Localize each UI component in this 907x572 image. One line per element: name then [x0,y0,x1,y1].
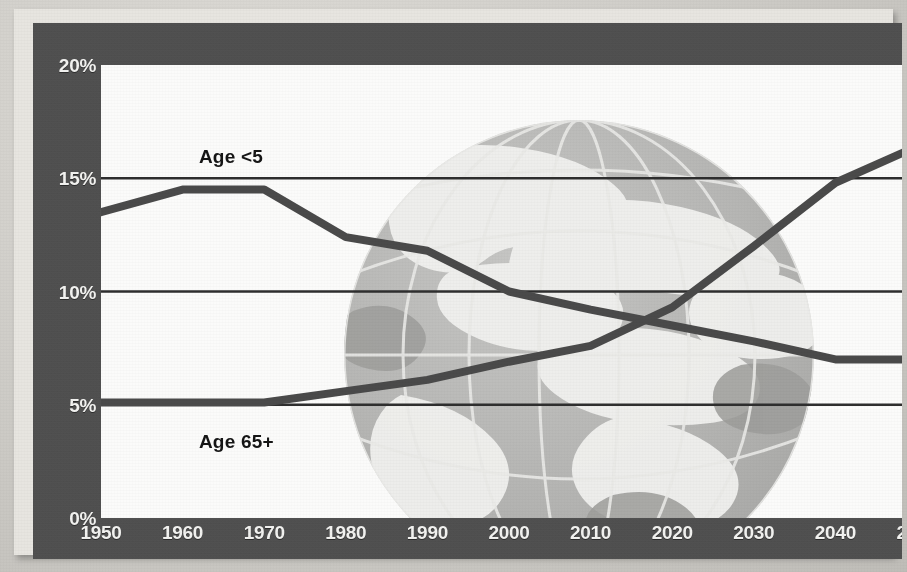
series-line-age-5 [101,190,902,360]
chart-outer-border: 0%5%10%15%20% [14,9,893,555]
x-axis-tick-label: 1980 [325,523,366,542]
x-axis-tick-label: 1950 [80,523,121,542]
series-lines [101,147,902,403]
series-line-age-65 [101,147,902,403]
series-label-age-under-5: Age <5 [199,147,263,166]
x-axis-tick-label: 2040 [815,523,856,542]
x-axis: 1950196019701980199020002010202020302040… [101,523,902,559]
page-background: 0%5%10%15%20% [0,0,907,572]
x-axis-tick-label: 1990 [407,523,448,542]
y-axis-tick-label: 15% [39,169,101,188]
y-axis-tick-label: 5% [39,395,101,414]
plot-area: Age <5 Age 65+ [101,65,902,518]
y-axis-tick-label: 20% [39,56,101,75]
x-axis-tick-label: 2000 [488,523,529,542]
x-axis-tick-label: 1970 [244,523,285,542]
x-axis-tick-label: 2020 [652,523,693,542]
y-axis-tick-label: 10% [39,282,101,301]
x-axis-tick-label: 1960 [162,523,203,542]
chart-frame: 0%5%10%15%20% [33,23,902,559]
x-axis-tick-label: 2030 [733,523,774,542]
y-axis: 0%5%10%15%20% [33,65,101,518]
x-axis-tick-label: 2050 [896,523,902,542]
series-label-age-65-plus: Age 65+ [199,432,274,451]
x-axis-tick-label: 2010 [570,523,611,542]
